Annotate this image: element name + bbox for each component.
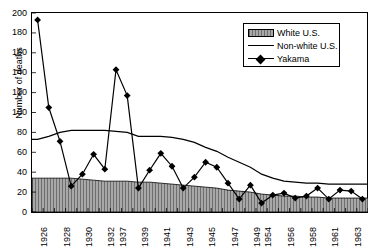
x-axis-tick-label: 1937	[119, 227, 128, 247]
x-axis-tick-label: 1926	[40, 227, 49, 247]
data-point-marker	[113, 66, 120, 73]
y-axis-tick-label: 100	[3, 108, 27, 117]
data-point-marker	[124, 92, 131, 99]
data-point-marker	[34, 17, 41, 24]
y-axis-tick-label: 40	[3, 168, 27, 177]
x-axis-tick-label: 1947	[231, 227, 240, 247]
x-axis-tick-label: 1932	[107, 227, 116, 247]
y-axis-tick-label: 160	[3, 48, 27, 57]
x-axis-tick-label: 1928	[63, 227, 72, 247]
y-axis-tick-label: 80	[3, 128, 27, 137]
legend-item-yakama: Yakama	[248, 53, 309, 65]
y-axis-tick-label: 0	[3, 208, 27, 217]
x-axis-tick-label: 1941	[163, 227, 172, 247]
legend-line-icon	[248, 42, 274, 50]
x-axis-tick-label: 1963	[354, 227, 363, 247]
y-axis-tick-label: 140	[3, 68, 27, 77]
x-axis-tick-label: 1956	[287, 227, 296, 247]
y-axis-tick-labels: 200180160140120100806040200	[0, 0, 27, 251]
legend-diamond-marker-icon	[256, 54, 266, 64]
y-axis-tick-label: 120	[3, 88, 27, 97]
y-axis-tick-label: 200	[3, 9, 27, 18]
legend-label-non-white-us: Non-white U.S.	[277, 42, 338, 51]
data-point-marker	[146, 167, 153, 174]
y-axis-tick-label: 60	[3, 148, 27, 157]
chart-figure: Number of deaths 20018016014012010080604…	[0, 0, 378, 251]
legend-hatched-swatch-icon	[248, 29, 274, 37]
y-axis-tick-label: 20	[3, 188, 27, 197]
x-axis-tick-label: 1945	[208, 227, 217, 247]
legend-line-diamond-icon	[248, 55, 274, 63]
x-axis-tick-labels: 1926192819301932193719391941194319451947…	[31, 213, 368, 251]
x-axis-tick-label: 1954	[264, 227, 273, 247]
x-axis-tick-label: 1949	[253, 227, 262, 247]
x-axis-tick-label: 1943	[186, 227, 195, 247]
legend-item-non-white-us: Non-white U.S.	[248, 40, 338, 52]
data-point-marker	[57, 138, 64, 145]
x-axis-tick-label: 1961	[331, 227, 340, 247]
chart-legend: White U.S. Non-white U.S. Yakama	[243, 23, 340, 67]
x-axis-tick-label: 1958	[309, 227, 318, 247]
x-axis-tick-label: 1930	[85, 227, 94, 247]
y-axis-tick-label: 180	[3, 28, 27, 37]
data-point-marker	[45, 104, 52, 111]
x-axis-tick-label: 1939	[141, 227, 150, 247]
legend-label-yakama: Yakama	[277, 55, 309, 64]
legend-label-white-us: White U.S.	[277, 29, 320, 38]
legend-item-white-us: White U.S.	[248, 27, 320, 39]
